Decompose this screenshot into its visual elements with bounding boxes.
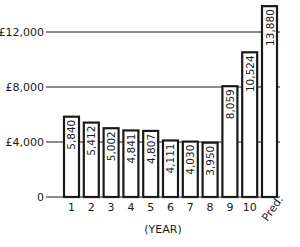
x-axis-label: (YEAR): [144, 223, 181, 236]
y-tick-label: £4,000: [6, 136, 45, 149]
data-label: 5,412: [85, 126, 97, 156]
y-axis-ticks: 0£4,000£8,000£12,000: [0, 26, 44, 204]
data-label: 3,950: [204, 146, 216, 176]
y-tick-label: 0: [37, 191, 44, 204]
x-tick-label: 5: [147, 201, 154, 214]
data-label: 13,880: [264, 9, 276, 46]
x-tick-label: 10: [243, 201, 257, 214]
x-tick-label: 7: [187, 201, 194, 214]
x-tick-label: 1: [68, 201, 75, 214]
y-tick-label: £8,000: [6, 81, 45, 94]
data-label: 8,059: [224, 89, 236, 119]
bars: 5,8405,4125,0024,8414,8074,1114,0303,950…: [64, 6, 277, 197]
x-tick-label: 2: [88, 201, 95, 214]
x-tick-label: 9: [226, 201, 233, 214]
data-label: 4,030: [184, 145, 196, 175]
data-label: 5,002: [105, 131, 117, 161]
x-tick-label: 4: [127, 201, 134, 214]
data-label: 4,111: [165, 143, 177, 173]
x-tick-label: 6: [167, 201, 174, 214]
x-tick-label: 3: [108, 201, 115, 214]
data-label: 10,524: [244, 55, 256, 92]
y-tick-label: £12,000: [0, 26, 44, 39]
data-label: 4,841: [125, 133, 137, 163]
data-label: 5,840: [66, 120, 78, 150]
x-tick-label: 8: [207, 201, 214, 214]
data-label: 4,807: [145, 134, 157, 164]
bar-chart: 0£4,000£8,000£12,000 5,8405,4125,0024,84…: [0, 0, 300, 247]
